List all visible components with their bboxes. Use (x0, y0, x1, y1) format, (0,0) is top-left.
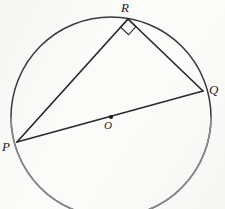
point-label-q: Q (209, 83, 218, 96)
segment-rq (128, 19, 203, 91)
circle-outline (11, 17, 211, 209)
right-angle-square-icon (121, 19, 136, 35)
point-label-p: P (2, 140, 10, 153)
point-label-r: R (121, 1, 129, 14)
geometry-canvas (0, 0, 225, 209)
center-label-o: O (104, 120, 112, 131)
geometry-figure: P Q R O (0, 0, 225, 209)
